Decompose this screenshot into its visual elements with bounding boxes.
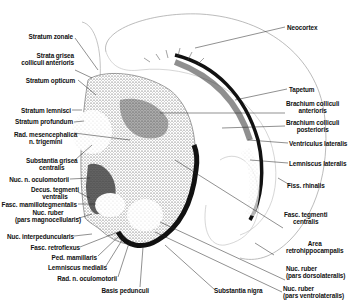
label-line: Nuc. ruber: [283, 285, 344, 292]
label-line: retrohippocampalis: [286, 247, 344, 254]
label-line: Strata grisea: [21, 52, 74, 59]
label-ventriculus-lateralis: Ventriculus lateralis: [289, 140, 347, 147]
label-lemniscus-lateralis: Lemniscus lateralis: [289, 160, 346, 167]
label-nuc-ruber-ventrolateralis: Nuc. ruber (pars ventrolateralis): [283, 285, 344, 299]
label-line: (pars magnocellularis): [15, 216, 81, 223]
label-line: Decus. tegmenti: [31, 186, 79, 193]
label-line: posterioris: [286, 126, 339, 133]
label-substantia-grisea: Substantia grisea centralis: [26, 157, 78, 171]
label-substantia-nigra: Substantia nigra: [214, 287, 262, 294]
label-line: centralis: [26, 164, 78, 171]
label-area-retrohippocampalis: Area retrohippocampalis: [286, 240, 344, 254]
label-line: Brachium colliculi: [286, 119, 339, 126]
label-brachium-colliculi-anterioris: Brachium colliculi anterioris: [286, 100, 339, 114]
label-line: Rad. mesencephalica: [14, 131, 77, 138]
label-decus-tegmenti: Decus. tegmenti ventralis: [31, 186, 79, 200]
label-neocortex: Neocortex: [287, 24, 317, 31]
label-brachium-colliculi-posterioris: Brachium colliculi posterioris: [286, 119, 339, 133]
label-line: ventralis: [31, 193, 79, 200]
label-fasc-mamillotegmentalis: Fasc. mamillotegmentalis: [2, 201, 77, 208]
label-rad-oculomotorii: Rad. n. oculomotorii: [57, 275, 117, 282]
label-stratum-profundum: Stratum profundum: [15, 118, 73, 125]
label-nuc-ruber-dorsolateralis: Nuc. ruber (pars dorsolateralis): [286, 265, 345, 279]
label-ped-mamillaris: Ped. mamillaris: [52, 254, 97, 261]
label-stratum-opticum: Stratum opticum: [26, 77, 75, 84]
label-rad-mesencephalica: Rad. mesencephalica n. trigemini: [14, 131, 77, 145]
label-line: (pars ventrolateralis): [283, 292, 344, 299]
label-tapetum: Tapetum: [289, 86, 314, 93]
label-nuc-oculomotorii: Nuc. n. oculomotorii: [9, 176, 69, 183]
label-fiss-rhinalis: Fiss. rhinalis: [287, 182, 325, 189]
label-basis-pedunculi: Basis pedunculi: [101, 287, 149, 294]
label-strata-grisea: Strata grisea colliculi anterioris: [21, 52, 74, 66]
label-stratum-zonale: Stratum zonale: [29, 33, 73, 40]
label-line: (pars dorsolateralis): [286, 272, 345, 279]
label-nuc-interpeduncularis: Nuc. interpeduncularis: [7, 233, 74, 240]
label-stratum-lemnisci: Stratum lemnisci: [21, 107, 71, 114]
label-line: anterioris: [286, 107, 339, 114]
substantia-grisea-centralis: [72, 110, 112, 154]
label-line: Substantia grisea: [26, 157, 78, 164]
label-line: Area: [286, 240, 344, 247]
label-line: n. trigemini: [14, 138, 77, 145]
label-nuc-ruber-magnocellularis: Nuc. ruber (pars magnocellularis): [15, 209, 81, 223]
label-lemniscus-medialis: Lemniscus medialis: [48, 264, 107, 271]
label-line: centralis: [284, 218, 327, 225]
label-line: Brachium colliculi: [286, 100, 339, 107]
label-line: Fasc. tegmenti: [284, 211, 327, 218]
label-fasc-tegmenti-centralis: Fasc. tegmenti centralis: [284, 211, 327, 225]
label-fasc-retroflexus: Fasc. retroflexus: [31, 244, 80, 251]
label-line: Nuc. ruber: [15, 209, 81, 216]
label-line: Nuc. ruber: [286, 265, 345, 272]
label-line: colliculi anterioris: [21, 59, 74, 66]
